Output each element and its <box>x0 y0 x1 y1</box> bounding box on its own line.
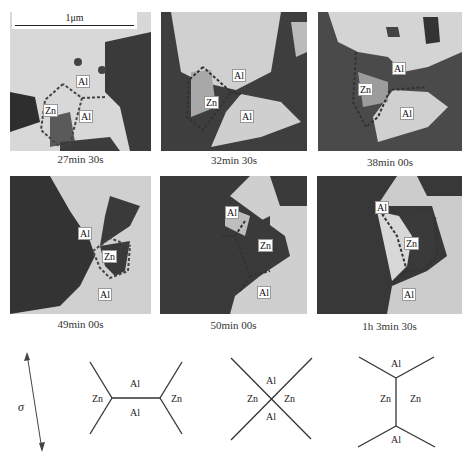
phase-label-al: Al <box>79 110 93 123</box>
micrograph-panel-5: Al Zn Al <box>160 176 307 314</box>
phase-label-al: Al <box>375 201 389 214</box>
schematic-label-zn: Zn <box>284 393 295 404</box>
phase-label-al: Al <box>98 288 112 301</box>
schematic-label-al: Al <box>266 411 276 422</box>
phase-label-al: Al <box>78 227 92 240</box>
phase-label-zn: Zn <box>358 83 373 96</box>
micrograph-panel-2: Al Zn Al <box>161 12 307 151</box>
micrograph-image <box>317 176 462 314</box>
panel-caption: 38min 00s <box>318 156 462 168</box>
schematic-diagram-2 <box>225 355 315 455</box>
schematic-label-al: Al <box>130 407 140 418</box>
phase-label-al: Al <box>402 288 416 301</box>
phase-label-al: Al <box>240 110 254 123</box>
micrograph-panel-1: Al Zn Al <box>10 12 151 151</box>
stress-symbol: σ <box>18 400 24 415</box>
panel-caption: 50min 00s <box>160 319 307 331</box>
panel-caption: 32min 30s <box>161 154 307 166</box>
schematic-label-zn: Zn <box>380 393 391 404</box>
scale-bar-line <box>15 25 134 26</box>
schematic-label-zn: Zn <box>247 393 258 404</box>
scale-bar-label: 1μm <box>12 12 137 23</box>
micrograph-panel-6: Al Zn Al <box>317 176 462 314</box>
phase-label-al: Al <box>400 107 414 120</box>
scale-bar: 1μm <box>12 12 137 29</box>
micrograph-panel-4: Al Zn Al <box>10 176 151 314</box>
schematic-label-zn: Zn <box>171 393 182 404</box>
schematic-label-al: Al <box>130 378 140 389</box>
micrograph-panel-3: Al Zn Al <box>318 12 462 151</box>
schematic-label-al: Al <box>266 375 276 386</box>
phase-label-zn: Zn <box>258 239 273 252</box>
micrograph-image <box>160 176 307 314</box>
panel-caption: 27min 30s <box>10 153 151 165</box>
phase-label-al: Al <box>76 75 90 88</box>
schematic-label-zn: Zn <box>410 393 421 404</box>
phase-label-al: Al <box>232 69 246 82</box>
schematic-diagram-1 <box>85 355 195 455</box>
panel-caption: 1h 3min 30s <box>317 320 462 332</box>
schematic-label-zn: Zn <box>92 393 103 404</box>
phase-label-zn: Zn <box>43 104 58 117</box>
panel-caption: 49min 00s <box>10 318 151 330</box>
phase-label-al: Al <box>392 62 406 75</box>
phase-label-zn: Zn <box>204 96 219 109</box>
schematic-label-al: Al <box>391 434 401 445</box>
phase-label-al: Al <box>225 206 239 219</box>
schematic-label-al: Al <box>391 358 401 369</box>
phase-label-zn: Zn <box>404 237 419 250</box>
phase-label-zn: Zn <box>102 250 117 263</box>
micrograph-image <box>10 176 151 314</box>
micrograph-image <box>318 12 462 151</box>
phase-label-al: Al <box>257 286 271 299</box>
